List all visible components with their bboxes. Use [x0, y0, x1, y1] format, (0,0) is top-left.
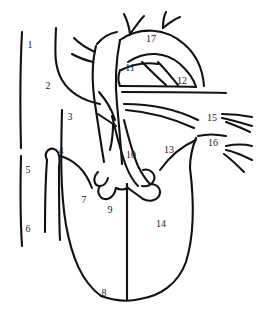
label-6: 6 [26, 224, 31, 234]
branch-twig-arch [97, 32, 117, 44]
label-14: 14 [156, 219, 166, 229]
vessel-7-curve [60, 156, 92, 188]
label-10: 10 [126, 150, 136, 160]
arch-branch-left [124, 14, 130, 34]
valve-base-right [128, 188, 143, 199]
appendage-4-outline [46, 149, 60, 168]
twig-16-c [224, 154, 244, 172]
label-1: 1 [28, 40, 33, 50]
appendage-4-left-limb [45, 160, 47, 232]
label-7: 7 [82, 195, 87, 205]
vessel-1-lower [21, 156, 22, 246]
vessel-16-stem [198, 135, 226, 137]
valve-cusp-left-1 [94, 172, 108, 186]
appendage-4-right-limb [59, 168, 60, 240]
vessel-1-outline [20, 32, 22, 148]
figure-canvas: 1 2 3 4 5 6 7 8 9 10 11 12 13 14 15 16 1… [0, 0, 256, 332]
label-12: 12 [177, 76, 187, 86]
label-3: 3 [68, 112, 73, 122]
twig-16-a [226, 145, 252, 147]
label-13: 13 [164, 145, 174, 155]
chamber-11-baseline [120, 86, 196, 87]
twig-15-a [222, 114, 252, 117]
label-15: 15 [207, 113, 217, 123]
heart-right-border [140, 168, 193, 299]
chamber-11-left-edge [119, 70, 121, 86]
label-2: 2 [46, 81, 51, 91]
label-4: 4 [59, 146, 64, 156]
label-11: 11 [125, 63, 135, 73]
septum-line-c [110, 124, 113, 150]
vessel-15-branch-lower [126, 110, 194, 128]
label-16: 16 [208, 138, 218, 148]
label-17: 17 [146, 34, 156, 44]
label-9: 9 [108, 205, 113, 215]
branch-twig-upper [74, 38, 95, 52]
heart-diagram [0, 0, 256, 332]
label-8: 8 [102, 288, 107, 298]
valve-cusp-left-2 [98, 186, 116, 199]
branch-twig-mid [72, 54, 93, 62]
heart-apex-outline [101, 296, 140, 301]
label-5: 5 [26, 165, 31, 175]
vessel-12-line [122, 92, 226, 93]
arch-branch-right-2 [163, 17, 180, 28]
